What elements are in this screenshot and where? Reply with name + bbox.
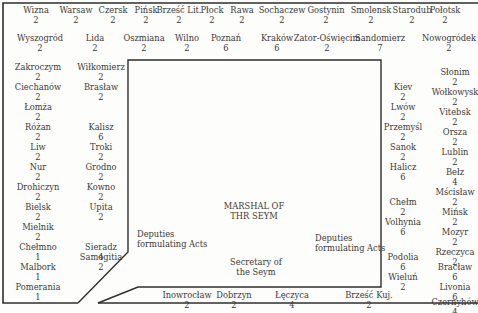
constituency-right-column-outer: Wołkowysk2 (432, 87, 478, 107)
deputy-count: 2 (85, 172, 116, 182)
constituency-name: Rawa (230, 5, 253, 15)
secretary-line1: Secretary of (230, 257, 282, 267)
constituency-name: Kowno (87, 182, 115, 192)
deputy-count: 2 (439, 117, 470, 127)
constituency-second-row: Wyszogród2 (17, 33, 63, 53)
constituency-top-row: Warsaw2 (59, 5, 92, 25)
constituency-name: Lwów (391, 102, 416, 112)
constituency-name: Poznań (211, 33, 241, 43)
constituency-name: Drohiczyn (17, 182, 60, 192)
deputy-count: 2 (393, 15, 432, 25)
deputy-count: 2 (389, 207, 416, 217)
constituency-bottom-row: Inowrocław2 (162, 290, 211, 310)
constituency-left-column-outer: Łomża2 (24, 102, 52, 122)
constituency-name: Mścisław (435, 187, 474, 197)
deputy-count: 2 (391, 112, 416, 122)
constituency-right-column-outer: Mozyr2 (442, 227, 469, 247)
deputy-count: 2 (30, 172, 47, 182)
constituency-second-row: Poznań6 (211, 33, 241, 53)
constituency-right-column-outer: Słonim2 (440, 67, 469, 87)
constituency-name: Ciechanów (15, 82, 61, 92)
constituency-name: Livonia (440, 282, 471, 292)
constituency-name: Oszmiana (123, 33, 164, 43)
constituency-second-row: Kraków6 (261, 33, 293, 53)
constituency-name: Wilno (175, 33, 199, 43)
constituency-left-column-outer: Pomerania1 (16, 282, 61, 302)
constituency-name: Lida (86, 33, 104, 43)
constituency-left-column-outer: Malbork1 (20, 262, 55, 282)
deputy-count: 6 (390, 172, 417, 182)
constituency-name: Brasław (84, 82, 118, 92)
constituency-name: Przemyśl (384, 122, 422, 132)
deputy-count: 2 (162, 300, 211, 310)
constituency-name: Kraków (261, 33, 293, 43)
constituency-name: Halicz (390, 162, 417, 172)
constituency-name: Bielsk (25, 202, 51, 212)
deputy-count: 2 (435, 197, 474, 207)
constituency-left-column-inner: Kowno2 (87, 182, 115, 202)
constituency-name: Gostynin (307, 5, 344, 15)
constituency-name: Słonim (440, 67, 469, 77)
deputy-count: 2 (390, 152, 416, 162)
deputy-count: 2 (17, 192, 60, 202)
deputy-count: 6 (385, 227, 421, 237)
constituency-name: Czernyhów (431, 297, 478, 307)
constituency-name: Upita (89, 202, 112, 212)
constituency-name: Warsaw (59, 5, 92, 15)
constituency-right-column-inner: Halicz6 (390, 162, 417, 182)
constituency-name: Orsza (443, 127, 467, 137)
constituency-second-row: Lida2 (86, 33, 104, 53)
constituency-name: Bracław (438, 262, 472, 272)
deputy-count: 2 (388, 282, 417, 292)
constituency-top-row: Rawa2 (230, 5, 253, 25)
constituency-right-column-inner: Chełm2 (389, 197, 416, 217)
deputy-count: 2 (90, 152, 112, 162)
deputy-count: 2 (307, 15, 344, 25)
constituency-top-row: Pińsk2 (135, 5, 158, 25)
constituency-name: Mińsk (442, 207, 468, 217)
constituency-right-column-outer: Bracław6 (438, 262, 472, 282)
constituency-top-row: Starodub2 (393, 5, 432, 25)
constituency-left-column-inner: Grodno2 (85, 162, 116, 182)
constituency-right-column-outer: Vitebsk2 (439, 107, 470, 127)
deputy-count: 2 (442, 217, 468, 227)
constituency-right-column-inner: Lwów2 (391, 102, 416, 122)
constituency-name: Sandomierz (355, 33, 405, 43)
constituency-name: Vitebsk (439, 107, 470, 117)
deputy-count: 6 (388, 262, 419, 272)
constituency-name: Łęczyca (275, 290, 309, 300)
marshal-line1: MARSHAL OF (224, 201, 284, 211)
deputy-count: 2 (77, 72, 125, 82)
constituency-name: Rzeczyca (436, 247, 475, 257)
secretary-label: Secretary of the Seym (230, 257, 282, 277)
constituency-left-column-outer: Ciechanów2 (15, 82, 61, 102)
constituency-right-column-inner: Kiev2 (394, 82, 412, 102)
constituency-right-column-inner: Wieluń2 (388, 272, 417, 292)
constituency-name: Łomża (24, 102, 52, 112)
deputy-count: 2 (394, 92, 412, 102)
constituency-top-row: Połotsk2 (430, 5, 461, 25)
constituency-name: Wizna (23, 5, 49, 15)
deputy-count: 2 (175, 43, 199, 53)
deputy-count: 2 (23, 15, 49, 25)
constituency-second-row: Oszmiana2 (123, 33, 164, 53)
constituency-name: Smolensk (351, 5, 392, 15)
deputy-count: 6 (261, 43, 293, 53)
constituency-name: Chełm (389, 197, 416, 207)
deputy-count: 2 (59, 15, 92, 25)
constituency-name: Grodno (85, 162, 116, 172)
deputy-count: 2 (216, 300, 251, 310)
constituency-top-row: Brześć Lit.2 (156, 5, 201, 25)
deputy-count: 2 (17, 43, 63, 53)
deputy-count: 2 (351, 15, 392, 25)
constituency-name: Bełz (446, 167, 464, 177)
deputies-right-label: Deputies formulating Acts (315, 233, 385, 253)
constituency-top-row: Gostynin2 (307, 5, 344, 25)
deputy-count: 4 (446, 177, 464, 187)
constituency-name: Pomerania (16, 282, 61, 292)
constituency-name: Mozyr (442, 227, 469, 237)
deputy-count: 2 (440, 77, 469, 87)
deputy-count: 2 (294, 43, 361, 53)
constituency-right-column-outer: Mińsk2 (442, 207, 468, 227)
constituency-bottom-row: Łęczyca4 (275, 290, 309, 310)
